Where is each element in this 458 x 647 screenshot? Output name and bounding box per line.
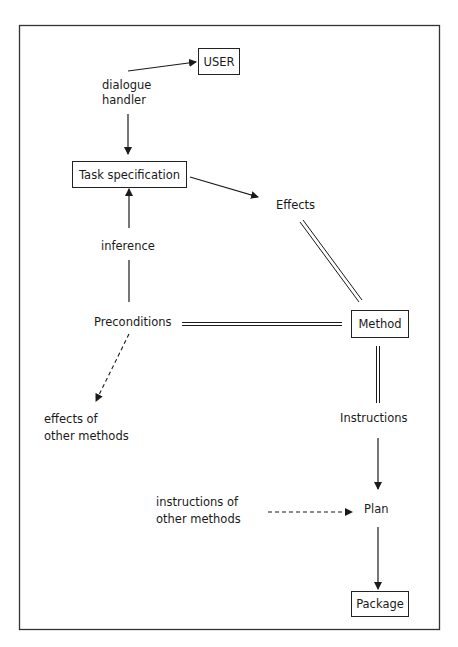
- dialogue-handler-line1: dialogue: [102, 78, 151, 93]
- effects-label: Effects: [276, 198, 315, 213]
- dialogue-handler-line2: handler: [102, 93, 151, 108]
- double-line-effects-method-b: [303, 220, 362, 300]
- preconditions-label: Preconditions: [94, 315, 171, 330]
- user-box: USER: [198, 48, 240, 75]
- inference-label: inference: [101, 239, 155, 254]
- task-specification-box: Task specification: [72, 161, 187, 188]
- dialogue-handler-label: dialogue handler: [102, 78, 151, 108]
- dashed-arrow-pre-to-effects-other: [96, 334, 129, 401]
- method-box: Method: [351, 310, 409, 338]
- task-specification-label: Task specification: [79, 168, 180, 182]
- arrow-task-to-effects: [190, 177, 258, 197]
- package-label: Package: [356, 597, 404, 611]
- effects-other-line2: other methods: [44, 428, 129, 445]
- instructions-other-line1: instructions of: [156, 494, 241, 511]
- instructions-label: Instructions: [340, 411, 408, 426]
- plan-label: Plan: [364, 502, 388, 517]
- arrow-dialogue-to-user: [128, 62, 196, 71]
- effects-other-line1: effects of: [44, 411, 129, 428]
- instructions-other-line2: other methods: [156, 511, 241, 528]
- instructions-of-other-methods-label: instructions of other methods: [156, 494, 241, 528]
- effects-of-other-methods-label: effects of other methods: [44, 411, 129, 445]
- package-box: Package: [351, 591, 409, 617]
- double-line-effects-method-a: [300, 222, 359, 302]
- user-label: USER: [204, 55, 235, 69]
- method-label: Method: [358, 317, 401, 331]
